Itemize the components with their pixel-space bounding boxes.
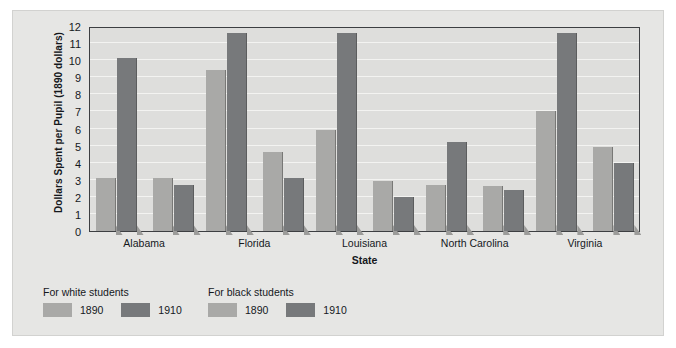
legend-entry: 1910 — [121, 303, 181, 317]
bar-body — [284, 178, 304, 231]
y-axis-tick-label: 9 — [75, 73, 81, 84]
bar — [593, 147, 613, 231]
y-axis-tick-label: 12 — [69, 22, 81, 33]
legend-swatch — [43, 303, 72, 317]
bar-body — [263, 152, 283, 231]
legend-entry: 1890 — [43, 303, 103, 317]
x-axis-title: State — [89, 254, 640, 266]
legend-entry: 1890 — [208, 303, 268, 317]
bar-shadow — [634, 225, 641, 235]
legend-group: For black students18901910 — [208, 286, 365, 317]
bar-shadow — [247, 225, 254, 235]
bar-shadow — [357, 225, 364, 235]
bar-shadow — [467, 225, 474, 235]
bar — [426, 185, 446, 231]
bar-shadow — [137, 225, 144, 235]
bar — [337, 33, 357, 231]
bar — [316, 130, 336, 231]
legend-swatch — [286, 303, 315, 317]
bar-shadow — [304, 225, 311, 235]
legend-group-title: For black students — [208, 286, 365, 298]
bar-shadow — [414, 225, 421, 235]
y-axis-tick-label: 1 — [75, 209, 81, 220]
bar-body — [557, 33, 577, 231]
x-axis-tick-label: Louisiana — [342, 237, 387, 249]
legend-group: For white students18901910 — [43, 286, 200, 317]
x-axis-tick-label: Florida — [238, 237, 270, 249]
bar-shadow — [577, 225, 584, 235]
bar-body — [483, 186, 503, 231]
bar-body — [337, 33, 357, 231]
y-axis-tick-labels: 0123456789101112 — [57, 27, 85, 232]
bar — [206, 70, 226, 231]
y-axis-tick-label: 10 — [69, 56, 81, 67]
legend-label: 1890 — [80, 304, 103, 316]
y-axis-tick-label: 4 — [75, 158, 81, 169]
y-axis-tick-label: 7 — [75, 107, 81, 118]
bar — [394, 197, 414, 231]
legend-group-title: For white students — [43, 286, 200, 298]
bar — [284, 178, 304, 231]
x-axis-tick-label: Alabama — [123, 237, 164, 249]
bar-body — [206, 70, 226, 231]
legend-entries: 18901910 — [208, 303, 365, 317]
bar-shadow — [194, 225, 201, 235]
chart-figure: Dollars Spent per Pupil (1890 dollars) 0… — [12, 10, 664, 336]
bar — [536, 111, 556, 231]
y-axis-tick-label: 5 — [75, 141, 81, 152]
bar — [447, 142, 467, 231]
legend-label: 1910 — [323, 304, 346, 316]
x-axis-tick-label: North Carolina — [441, 237, 509, 249]
bar-body — [447, 142, 467, 231]
bar-body — [373, 181, 393, 231]
bars-layer — [90, 28, 639, 231]
y-axis-tick-label: 0 — [75, 227, 81, 238]
bar — [373, 181, 393, 231]
bar-body — [316, 130, 336, 231]
bar-body — [394, 197, 414, 231]
y-axis-tick-label: 11 — [70, 39, 81, 50]
legend-swatch — [208, 303, 237, 317]
chart-legend: For white students18901910For black stud… — [43, 286, 643, 332]
bar-body — [593, 147, 613, 231]
bar-body — [536, 111, 556, 231]
x-axis-tick-label: Virginia — [567, 237, 602, 249]
bar-shadow — [524, 225, 531, 235]
bar — [174, 185, 194, 231]
bar — [263, 152, 283, 231]
y-axis-tick-label: 2 — [75, 192, 81, 203]
bar — [614, 163, 634, 231]
legend-swatch — [121, 303, 150, 317]
bar-body — [153, 178, 173, 231]
bar — [504, 190, 524, 231]
bar-body — [227, 33, 247, 231]
bar — [96, 178, 116, 231]
legend-label: 1910 — [158, 304, 181, 316]
bar-body — [614, 163, 634, 231]
bar-body — [504, 190, 524, 231]
y-axis-tick-label: 3 — [75, 175, 81, 186]
plot-area — [89, 27, 640, 232]
bar-body — [117, 58, 137, 231]
x-axis-tick-labels: AlabamaFloridaLouisianaNorth CarolinaVir… — [89, 237, 640, 253]
bar — [153, 178, 173, 231]
legend-entries: 18901910 — [43, 303, 200, 317]
bar-body — [96, 178, 116, 231]
legend-entry: 1910 — [286, 303, 346, 317]
bar — [483, 186, 503, 231]
bar — [227, 33, 247, 231]
legend-label: 1890 — [245, 304, 268, 316]
bar-body — [426, 185, 446, 231]
y-axis-tick-label: 6 — [75, 124, 81, 135]
bar-body — [174, 185, 194, 231]
bar — [557, 33, 577, 231]
y-axis-tick-label: 8 — [75, 90, 81, 101]
bar — [117, 58, 137, 231]
